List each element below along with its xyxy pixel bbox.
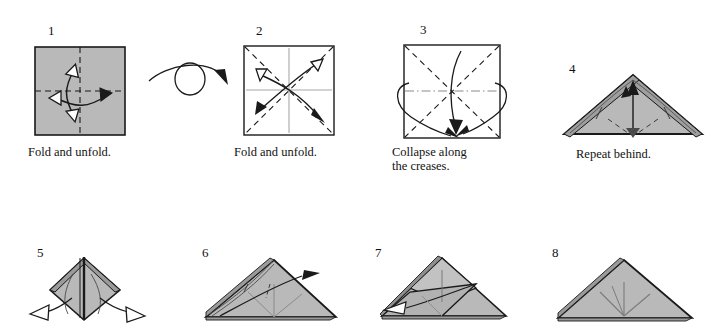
step-2-caption: Fold and unfold. — [234, 146, 317, 160]
step-1-number: 1 — [48, 24, 55, 37]
step-2-number: 2 — [256, 24, 263, 37]
turnover-arc — [149, 65, 224, 81]
paper-triangle — [558, 260, 692, 318]
turn-over-symbol — [148, 55, 236, 105]
step-4-caption: Repeat behind. — [576, 148, 651, 162]
step-6-number: 6 — [202, 246, 209, 259]
paper-edge-bottom — [558, 318, 692, 321]
step-7-figure — [366, 252, 526, 324]
step-7-number: 7 — [375, 246, 382, 259]
step-5-number: 5 — [37, 246, 44, 259]
step-2-figure — [243, 45, 337, 137]
step-6-figure — [196, 254, 346, 324]
step-5-figure — [28, 252, 168, 324]
step-3-number: 3 — [420, 23, 427, 36]
step-1-figure — [34, 46, 126, 136]
step-3-figure — [393, 43, 511, 141]
arrowhead-fold-over — [302, 270, 320, 280]
paper-edge-bottom — [206, 317, 336, 320]
step-8-figure — [548, 254, 704, 324]
turnover-arrowhead — [214, 69, 228, 85]
step-3-caption: Collapse along the creases. — [392, 146, 467, 173]
step-8-number: 8 — [552, 246, 559, 259]
paper-edge-bottom — [382, 316, 506, 319]
step-4-number: 4 — [569, 62, 576, 75]
origami-diagram-stage: 1 Fold and unfold. 2 Fold and unfold. — [0, 0, 707, 324]
paper-triangle — [206, 260, 336, 317]
turnover-circle-icon — [175, 63, 205, 95]
arrowhead-pull-left — [30, 305, 49, 320]
step-4-figure — [560, 72, 706, 142]
step-1-caption: Fold and unfold. — [28, 146, 111, 160]
arrowhead-pull-right — [126, 307, 145, 322]
